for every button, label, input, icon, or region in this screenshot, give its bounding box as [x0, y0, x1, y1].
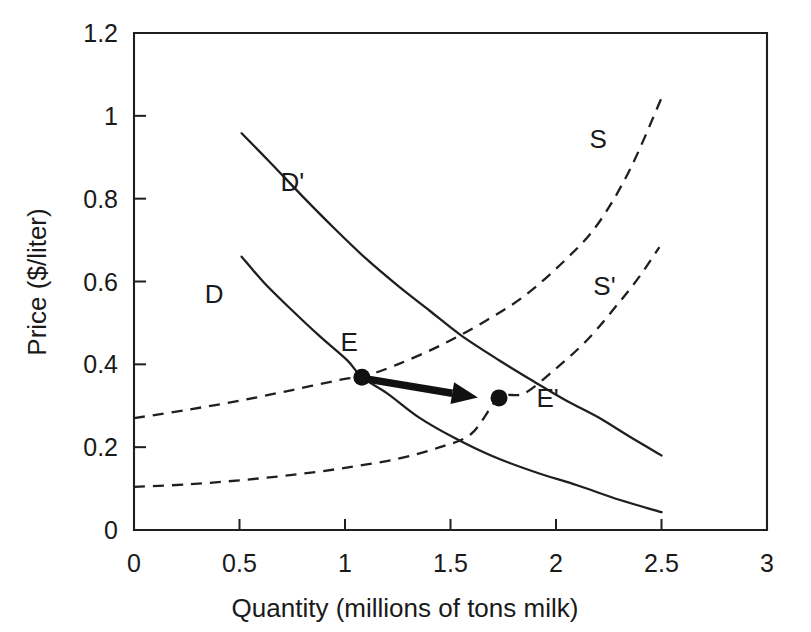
- y-tick-label: 0.2: [83, 433, 118, 461]
- y-tick-label: 0.4: [83, 350, 118, 378]
- supply-demand-figure: 00.511.522.53 00.20.40.60.811.2 DD'SS' E…: [0, 0, 811, 632]
- axis-frame: [134, 33, 767, 530]
- curve-label-d-prime: D': [280, 167, 304, 197]
- y-axis-tick-labels: 00.20.40.60.811.2: [83, 19, 118, 544]
- y-axis-title: Price ($/liter): [22, 208, 52, 355]
- curve-s: [134, 98, 662, 418]
- x-tick-label: 1: [338, 549, 352, 577]
- shift-arrow-head: [450, 382, 477, 404]
- x-tick-label: 3: [760, 549, 774, 577]
- curve-label-d: D: [205, 279, 224, 309]
- equilibrium-E-prime-label: E': [536, 383, 558, 413]
- x-tick-label: 2: [549, 549, 563, 577]
- y-tick-label: 0: [104, 516, 118, 544]
- plot-frame: [134, 33, 767, 530]
- x-tick-label: 0: [127, 549, 141, 577]
- chart-canvas: 00.511.522.53 00.20.40.60.811.2 DD'SS' E…: [0, 0, 811, 632]
- y-axis-ticks: [134, 116, 146, 447]
- x-axis-ticks: [240, 519, 662, 530]
- equilibrium-E-prime-dot: [491, 389, 508, 406]
- x-tick-label: 0.5: [222, 549, 257, 577]
- curve-label-s: S: [590, 124, 607, 154]
- curve-labels-group: DD'SS': [205, 124, 616, 309]
- shift-arrow-body: [366, 379, 452, 393]
- equilibrium-E-label: E: [341, 327, 358, 357]
- x-tick-label: 1.5: [433, 549, 468, 577]
- x-axis-title: Quantity (millions of tons milk): [232, 593, 579, 623]
- x-tick-label: 2.5: [644, 549, 679, 577]
- x-axis-tick-labels: 00.511.522.53: [127, 549, 774, 577]
- y-tick-label: 0.8: [83, 185, 118, 213]
- curve-label-s-prime: S': [593, 271, 615, 301]
- y-tick-label: 1: [104, 102, 118, 130]
- y-tick-label: 1.2: [83, 19, 118, 47]
- y-tick-label: 0.6: [83, 268, 118, 296]
